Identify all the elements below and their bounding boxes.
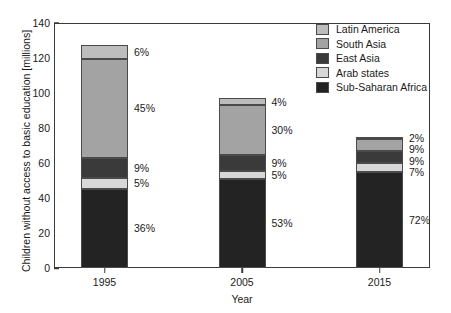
y-tick-label: 80 (38, 123, 50, 134)
segment-percent-label: 9% (272, 158, 287, 169)
segment-percent-label: 30% (272, 125, 293, 136)
bar-segment[interactable] (356, 163, 403, 172)
bar-segment[interactable] (356, 151, 403, 163)
y-tick-label: 20 (38, 228, 50, 239)
x-tick-label: 2005 (230, 276, 253, 288)
bar-segment[interactable] (219, 179, 266, 268)
segment-percent-label: 5% (134, 178, 149, 189)
legend-swatch-icon (316, 38, 329, 49)
segment-percent-label: 2% (409, 133, 424, 144)
bar-segment[interactable] (356, 172, 403, 268)
bar-2015[interactable] (356, 23, 403, 268)
x-tick-mark (379, 268, 381, 273)
bar-segment[interactable] (219, 171, 266, 179)
bar-segment[interactable] (81, 59, 128, 158)
y-tick-label: 0 (44, 263, 50, 274)
bar-segment[interactable] (81, 178, 128, 189)
bar-segment[interactable] (81, 158, 128, 178)
bar-segment[interactable] (356, 137, 403, 140)
segment-percent-label: 9% (134, 162, 149, 173)
x-tick-mark (104, 268, 106, 273)
legend-swatch-icon (316, 82, 329, 93)
legend-swatch-icon (316, 67, 329, 78)
y-tick-label: 60 (38, 158, 50, 169)
bar-1995[interactable] (81, 23, 128, 268)
segment-percent-label: 6% (134, 47, 149, 58)
segment-percent-label: 7% (409, 167, 424, 178)
segment-percent-label: 9% (409, 144, 424, 155)
y-tick-label: 100 (32, 88, 50, 99)
x-tick-label: 1995 (93, 276, 116, 288)
segment-percent-label: 9% (409, 156, 424, 167)
bar-segment[interactable] (219, 155, 266, 170)
x-axis-title: Year (231, 293, 252, 305)
bar-segment[interactable] (81, 45, 128, 58)
legend-swatch-icon (316, 53, 329, 64)
segment-percent-label: 45% (134, 103, 155, 114)
segment-percent-label: 72% (409, 215, 430, 226)
bar-segment[interactable] (219, 98, 266, 105)
bar-segment[interactable] (356, 139, 403, 151)
bar-2005[interactable] (219, 23, 266, 268)
bar-segment[interactable] (219, 105, 266, 155)
segment-percent-label: 5% (272, 169, 287, 180)
legend-swatch-icon (316, 24, 329, 35)
x-tick-label: 2015 (368, 276, 391, 288)
segment-percent-label: 53% (272, 218, 293, 229)
y-tick-label: 140 (32, 18, 50, 29)
y-axis-title: Children without access to basic educati… (20, 21, 32, 281)
stacked-bar-chart: Children without access to basic educati… (0, 0, 451, 313)
segment-percent-label: 4% (272, 97, 287, 108)
y-tick-label: 120 (32, 53, 50, 64)
x-tick-mark (241, 268, 243, 273)
segment-percent-label: 36% (134, 223, 155, 234)
bar-segment[interactable] (81, 189, 128, 268)
y-tick-label: 40 (38, 193, 50, 204)
